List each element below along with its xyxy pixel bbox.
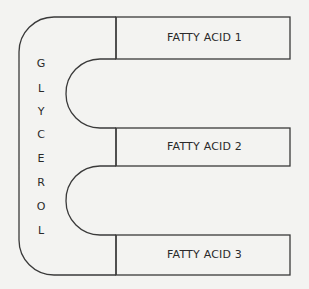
glycerol-letter: R	[34, 176, 48, 189]
glycerol-letter: C	[34, 128, 48, 141]
fatty-acid-label-3: FATTY ACID 3	[167, 248, 242, 261]
fatty-acid-label-2: FATTY ACID 2	[167, 140, 242, 153]
glycerol-letter: Y	[34, 105, 48, 118]
glycerol-letter: O	[34, 200, 48, 213]
glycerol-letter: L	[34, 82, 48, 95]
glycerol-letter: E	[34, 152, 48, 165]
glycerol-letter: L	[34, 224, 48, 237]
fatty-acid-label-1: FATTY ACID 1	[167, 31, 242, 44]
triglyceride-diagram	[0, 0, 309, 289]
glycerol-letter: G	[34, 57, 48, 70]
